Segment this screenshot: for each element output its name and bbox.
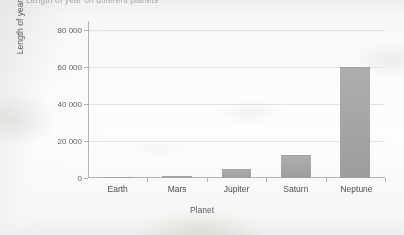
bar-series: EarthMarsJupiterSaturnNeptune — [88, 21, 385, 178]
bar-slot: Saturn — [281, 21, 311, 178]
x-tick-mark — [207, 178, 208, 182]
x-tick-label-jupiter: Jupiter — [222, 184, 252, 194]
y-tick-label: 60 000 — [58, 63, 82, 72]
x-tick-mark — [385, 178, 386, 182]
y-tick-label: 20 000 — [58, 137, 82, 146]
bar-saturn — [281, 155, 311, 178]
bar-slot: Jupiter — [222, 21, 252, 178]
bar-earth — [103, 177, 133, 178]
y-tick-mark — [84, 178, 88, 179]
plot-area: 020 00040 00060 00080 000 EarthMarsJupit… — [88, 21, 385, 178]
x-axis-title: Planet — [0, 205, 404, 215]
bar-neptune — [340, 67, 370, 178]
y-tick-label: 40 000 — [58, 100, 82, 109]
x-tick-label-neptune: Neptune — [340, 184, 370, 194]
x-tick-label-earth: Earth — [103, 184, 133, 194]
x-tick-mark — [326, 178, 327, 182]
x-tick-mark — [147, 178, 148, 182]
bar-slot: Neptune — [340, 21, 370, 178]
x-tick-mark — [266, 178, 267, 182]
y-tick-label: 80 000 — [58, 26, 82, 35]
bar-jupiter — [222, 169, 252, 178]
y-tick-label: 0 — [78, 174, 82, 183]
bar-slot: Mars — [162, 21, 192, 178]
bar-slot: Earth — [103, 21, 133, 178]
bar-mars — [162, 176, 192, 178]
chart-title: Length of year on different planets — [26, 0, 356, 6]
x-tick-label-mars: Mars — [162, 184, 192, 194]
y-axis-title: Length of year (days) — [15, 0, 25, 69]
x-tick-label-saturn: Saturn — [281, 184, 311, 194]
bar-chart-figure: Length of year on different planets Leng… — [0, 0, 404, 235]
